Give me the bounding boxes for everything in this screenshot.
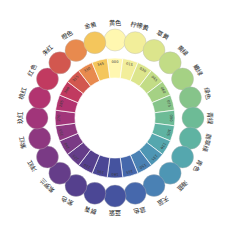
swatch-dot bbox=[26, 107, 48, 129]
swatch-dots bbox=[26, 29, 204, 207]
color-name-label: 蓝紫 bbox=[109, 210, 121, 217]
color-name-label: 群青 bbox=[83, 205, 97, 216]
swatch-dot bbox=[84, 32, 106, 54]
hue-ring bbox=[55, 58, 175, 178]
color-wheel-svg: 0000150300450600750901051201351501651801… bbox=[0, 0, 231, 244]
color-name-label: 青绿 bbox=[206, 112, 214, 125]
degree-label: 180 bbox=[111, 172, 119, 176]
swatch-dot bbox=[179, 87, 201, 109]
color-name-label: 桃红 bbox=[18, 86, 29, 100]
swatch-dot bbox=[104, 185, 126, 207]
color-name-label: 红色 bbox=[26, 63, 38, 77]
color-name-label: 柠檬黄 bbox=[130, 20, 149, 32]
color-name-label: 玖红 bbox=[16, 112, 24, 124]
swatch-dot bbox=[104, 29, 126, 51]
color-name-label: 紫色 bbox=[60, 195, 74, 207]
color-name-label: 黄色 bbox=[109, 19, 121, 27]
degree-label: 090 bbox=[169, 114, 173, 122]
degree-label: 000 bbox=[111, 60, 119, 64]
color-name-label: 翡翠绿 bbox=[202, 133, 214, 153]
color-name-label: 紫红 bbox=[18, 136, 28, 149]
color-name-label: 金黄 bbox=[83, 21, 97, 32]
swatch-dot bbox=[29, 127, 51, 149]
swatch-dot bbox=[182, 107, 204, 129]
swatch-dot bbox=[124, 182, 146, 204]
color-name-label: 绿色 bbox=[203, 86, 213, 99]
color-wheel-figure: 0000150300450600750901051201351501651801… bbox=[0, 0, 231, 244]
color-name-label: 蓝色 bbox=[133, 206, 146, 216]
degree-label: 270 bbox=[57, 114, 61, 122]
